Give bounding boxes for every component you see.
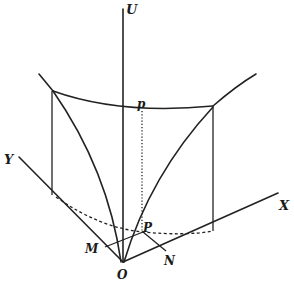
label-X: X <box>278 198 290 213</box>
label-P: P <box>142 221 153 235</box>
label-M: M <box>84 242 99 256</box>
M-P-line <box>105 232 143 247</box>
label-Y: Y <box>4 152 15 167</box>
base-dashed-curve <box>56 197 213 234</box>
right-generator-curve <box>124 107 213 262</box>
surface-right-extension <box>213 74 256 106</box>
label-O: O <box>117 268 128 282</box>
surface-top-curve <box>53 91 213 108</box>
left-generator-curve <box>53 91 121 262</box>
diagram-canvas: U X Y O M N P p <box>0 0 294 288</box>
label-N: N <box>163 254 176 268</box>
label-U: U <box>126 2 138 17</box>
label-p: p <box>137 97 146 111</box>
surface-left-extension <box>39 74 53 91</box>
